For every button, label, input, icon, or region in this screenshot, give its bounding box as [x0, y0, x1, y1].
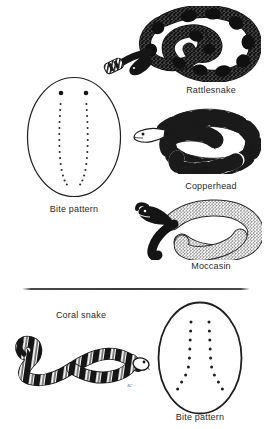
moccasin-illustration	[128, 194, 262, 260]
bite-pattern-coral-snake	[157, 301, 243, 415]
section-divider	[22, 288, 250, 290]
rattlesnake-illustration	[103, 6, 261, 82]
snake-identification-figure: Rattlesnake Copperhead	[0, 0, 266, 429]
bite-pattern-outline	[28, 78, 121, 197]
bite-pattern-outline	[159, 303, 242, 414]
coral-snake-label: Coral snake	[41, 310, 121, 320]
svg-text:JC: JC	[127, 383, 133, 388]
bite-pattern-coral-snake-label: Bite pattern	[162, 412, 238, 422]
coral-snake-illustration: JC	[8, 328, 150, 390]
rattlesnake-label: Rattlesnake	[166, 85, 256, 95]
copperhead-label: Copperhead	[166, 181, 256, 191]
copperhead-illustration	[127, 108, 261, 174]
moccasin-label: Moccasin	[166, 261, 256, 271]
bite-pattern-pit-viper	[25, 76, 123, 200]
bite-pattern-pit-viper-label: Bite pattern	[41, 204, 107, 214]
